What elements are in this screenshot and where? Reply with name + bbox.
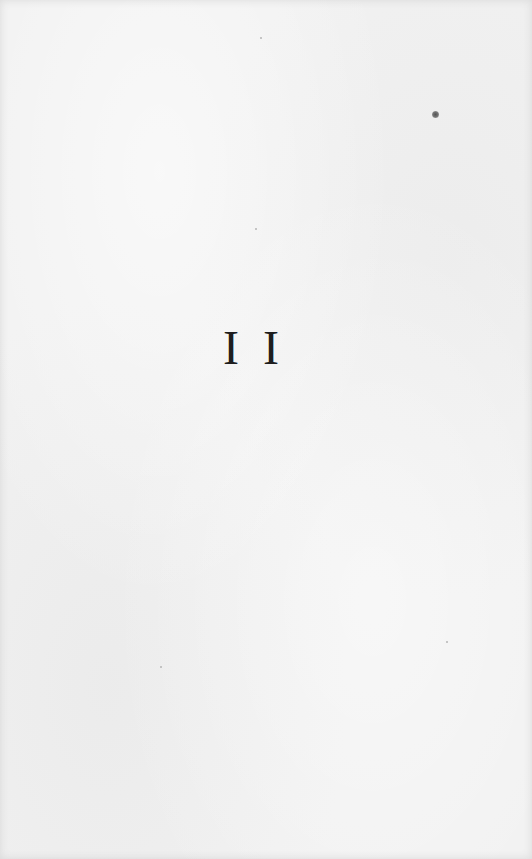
paper-speck xyxy=(260,37,262,39)
paper-speck xyxy=(160,666,162,668)
paper-speck xyxy=(255,228,257,230)
paper-speck xyxy=(446,641,448,643)
section-numeral: I I xyxy=(0,318,508,378)
paper-speck xyxy=(432,111,439,118)
book-page: I I xyxy=(0,0,532,859)
